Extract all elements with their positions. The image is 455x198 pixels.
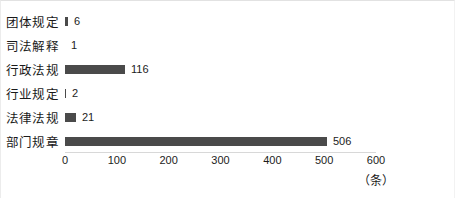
bar-row: 法律法规21 [1,105,455,129]
bar-row: 部门规章506 [1,129,455,153]
bar-zone: 6 [65,9,80,33]
bar-value-label: 116 [131,63,149,75]
x-axis-line [65,152,376,153]
x-tick-label: 400 [263,154,281,166]
bar-zone: 21 [65,105,94,129]
bar-zone: 506 [65,129,351,153]
x-axis-unit-label: （条） [358,171,394,189]
category-label: 团体规定 [1,12,59,31]
category-label: 司法解释 [1,36,59,55]
x-tick-label: 200 [159,154,177,166]
bar[interactable] [65,89,66,98]
bar[interactable] [65,137,327,146]
category-label: 行政法规 [1,60,59,79]
bar-row: 行政法规116 [1,57,455,81]
bar-zone: 2 [65,81,78,105]
bar-chart: 团体规定6司法解释1行政法规116行业规定2法律法规21部门规章506 0100… [0,0,455,198]
bar-value-label: 21 [82,111,94,123]
bar-zone: 116 [65,57,149,81]
x-tick-label: 500 [315,154,333,166]
bar[interactable] [65,113,76,122]
bar[interactable] [65,65,125,74]
category-label: 法律法规 [1,108,59,127]
category-label: 行业规定 [1,84,59,103]
bar[interactable] [65,17,68,26]
bar-row: 团体规定6 [1,9,455,33]
x-tick-label: 300 [211,154,229,166]
bar-row: 司法解释1 [1,33,455,57]
x-tick-label: 100 [108,154,126,166]
chart-plot-area: 团体规定6司法解释1行政法规116行业规定2法律法规21部门规章506 [1,9,455,153]
bar-value-label: 2 [72,87,78,99]
bar-value-label: 1 [71,39,77,51]
bar-value-label: 6 [74,15,80,27]
x-tick-label: 600 [367,154,385,166]
bar-value-label: 506 [333,135,351,147]
bar-zone: 1 [65,33,77,57]
category-label: 部门规章 [1,132,59,151]
x-axis-ticks: 0100200300400500600 [1,154,455,170]
x-tick-label: 0 [62,154,68,166]
bar-row: 行业规定2 [1,81,455,105]
